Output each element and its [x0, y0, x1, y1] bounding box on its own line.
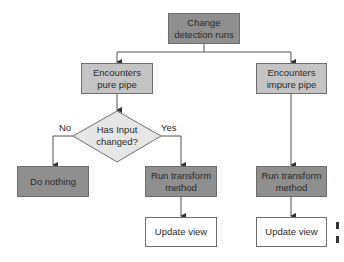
node-label: Do nothing	[30, 176, 76, 188]
cropped-text-fragment	[336, 222, 339, 229]
flowchart: Change detection runs Encounters pure pi…	[0, 0, 344, 262]
node-run-transform-pure: Run transform method	[145, 166, 217, 197]
node-change-detection-runs: Change detection runs	[168, 13, 240, 44]
node-label-line1: Encounters	[93, 67, 141, 79]
node-label-line1: Encounters	[267, 67, 315, 79]
node-label-line2: impure pipe	[267, 79, 317, 91]
node-label-line1: Run transform	[261, 170, 321, 182]
node-label-line2: pure pipe	[97, 79, 137, 91]
decision-has-input-changed: Has Input changed?	[85, 124, 149, 148]
decision-label-line2: changed?	[85, 136, 149, 148]
node-run-transform-impure: Run transform method	[256, 166, 327, 197]
node-label-line1: Run transform	[151, 170, 211, 182]
node-label-line2: method	[276, 182, 308, 194]
node-label-line1: Change	[187, 17, 220, 29]
decision-label-line1: Has Input	[85, 124, 149, 136]
node-encounters-impure-pipe: Encounters impure pipe	[256, 63, 327, 94]
edge-label-yes: Yes	[161, 122, 177, 133]
node-label: Update view	[155, 226, 207, 238]
node-do-nothing: Do nothing	[17, 166, 89, 197]
edge-label-no: No	[59, 122, 71, 133]
node-label-line2: detection runs	[174, 29, 234, 41]
node-update-view-pure: Update view	[145, 217, 217, 247]
node-label: Update view	[265, 226, 317, 238]
node-label-line2: method	[165, 182, 197, 194]
node-encounters-pure-pipe: Encounters pure pipe	[81, 63, 153, 94]
cropped-text-fragment	[336, 236, 339, 243]
node-update-view-impure: Update view	[256, 217, 327, 247]
